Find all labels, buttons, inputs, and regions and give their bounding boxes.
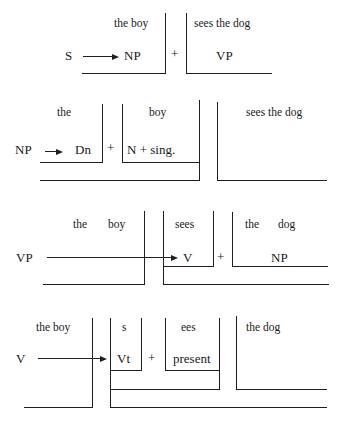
bracket-vertical-line	[165, 318, 166, 371]
bracket-horizontal-line	[40, 162, 103, 163]
arrow-head-icon	[171, 255, 178, 261]
symbol-vp: VP	[16, 251, 33, 264]
bracket-vertical-line	[102, 104, 103, 163]
words-sees-the-dog: sees the dog	[194, 18, 250, 30]
bracket-vertical-line	[232, 212, 233, 267]
bracket-vertical-line	[217, 102, 218, 181]
plus-sign: +	[107, 141, 114, 154]
words-the-dog: the dog	[246, 322, 280, 334]
bracket-horizontal-line	[163, 266, 214, 267]
bracket-vertical-line	[122, 104, 123, 163]
rewrite-arrow-icon	[47, 257, 172, 258]
bracket-horizontal-line	[217, 180, 327, 181]
bracket-horizontal-line	[110, 389, 220, 390]
words-sees-the-dog: sees the dog	[246, 107, 302, 119]
bracket-vertical-line	[199, 100, 200, 181]
bracket-vertical-line	[213, 211, 214, 267]
symbol-v: V	[16, 352, 25, 365]
symbol-v: V	[183, 251, 192, 264]
words-boy: boy	[149, 107, 166, 119]
bracket-vertical-line	[165, 13, 166, 74]
bracket-horizontal-line	[110, 370, 142, 371]
symbol-np: NP	[15, 143, 32, 156]
bracket-vertical-line	[141, 318, 142, 371]
arrow-head-icon	[100, 356, 107, 362]
bracket-vertical-line	[92, 318, 93, 408]
words-ees: ees	[181, 322, 196, 334]
bracket-horizontal-line	[110, 407, 327, 408]
symbol-np: NP	[271, 251, 288, 264]
bracket-horizontal-line	[236, 389, 327, 390]
bracket-horizontal-line	[165, 370, 220, 371]
bracket-vertical-line	[163, 211, 164, 285]
bracket-vertical-line	[144, 211, 145, 285]
bracket-horizontal-line	[187, 73, 272, 74]
symbol-dn: Dn	[75, 143, 91, 156]
bracket-horizontal-line	[24, 407, 93, 408]
words-the-boy: the boy	[114, 18, 148, 30]
symbol-vp: VP	[216, 49, 233, 62]
symbol-vt: Vt	[117, 352, 130, 365]
rewrite-arrow-icon	[38, 358, 101, 359]
symbol-np: NP	[124, 49, 141, 62]
words-boy: boy	[108, 219, 125, 231]
bracket-horizontal-line	[122, 162, 199, 163]
bracket-vertical-line	[186, 13, 187, 74]
bracket-vertical-line	[236, 316, 237, 390]
plus-sign: +	[171, 47, 178, 60]
symbol-s: S	[65, 49, 72, 62]
phrase-structure-diagram: the boysees the dogSNP+VPtheboysees the …	[0, 0, 343, 426]
words-the: the	[73, 219, 87, 231]
bracket-vertical-line	[110, 318, 111, 408]
bracket-horizontal-line	[43, 284, 145, 285]
plus-sign: +	[148, 351, 155, 364]
symbol-present: present	[173, 352, 211, 365]
bracket-horizontal-line	[163, 284, 329, 285]
words-sees: sees	[175, 219, 194, 231]
bracket-vertical-line	[219, 318, 220, 390]
rewrite-arrow-icon	[83, 56, 113, 57]
plus-sign: +	[217, 250, 224, 263]
words-the-boy: the boy	[36, 322, 70, 334]
bracket-horizontal-line	[40, 180, 200, 181]
words-the: the	[57, 107, 71, 119]
arrow-head-icon	[56, 149, 63, 155]
words-the: the	[245, 219, 259, 231]
words-dog: dog	[278, 219, 295, 231]
arrow-head-icon	[112, 54, 119, 60]
symbol-n-sing: N + sing.	[127, 143, 175, 156]
bracket-horizontal-line	[232, 266, 328, 267]
words-s: s	[122, 322, 126, 334]
bracket-horizontal-line	[82, 73, 166, 74]
